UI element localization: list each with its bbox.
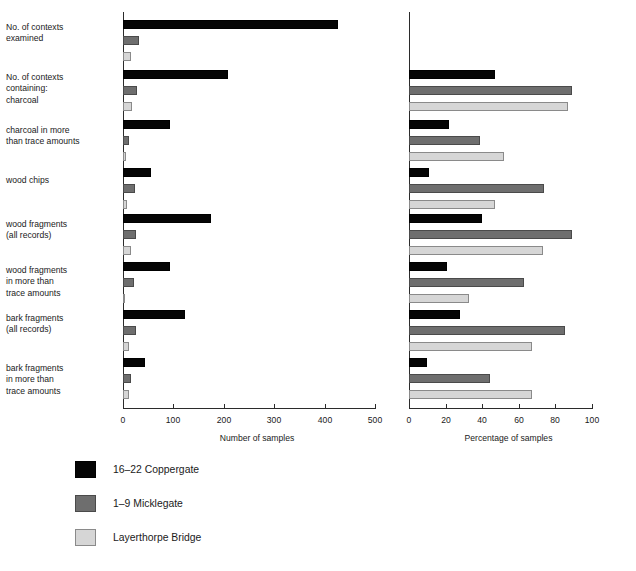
x-axis-tick-label: 80	[550, 415, 560, 425]
x-axis-tick	[519, 404, 520, 408]
bar	[409, 136, 480, 145]
x-axis-tick-label: 60	[514, 415, 524, 425]
bar	[409, 102, 568, 111]
x-axis-tick-label: 40	[477, 415, 487, 425]
bar	[409, 86, 572, 95]
legend-label-layerthorpe: Layerthorpe Bridge	[113, 529, 201, 546]
bar	[409, 294, 469, 303]
legend-swatch-layerthorpe	[75, 529, 96, 546]
x-axis-tick	[592, 404, 593, 408]
legend-label-micklegate: 1–9 Micklegate	[113, 495, 183, 512]
bar	[409, 246, 543, 255]
x-axis-tick	[409, 404, 410, 408]
bar	[409, 168, 429, 177]
bar	[409, 278, 524, 287]
figure-bar-chart-pair: No. of contexts examinedNo. of contexts …	[0, 0, 636, 571]
x-axis-tick-label: 0	[407, 415, 412, 425]
legend-label-coppergate: 16–22 Coppergate	[113, 461, 199, 478]
x-axis-title: Percentage of samples	[465, 433, 553, 443]
bar	[409, 70, 495, 79]
bar	[409, 200, 495, 209]
bar	[409, 120, 449, 129]
bar	[409, 374, 490, 383]
bar	[409, 152, 504, 161]
x-axis-tick	[555, 404, 556, 408]
bar	[409, 326, 565, 335]
x-axis-tick-label: 20	[441, 415, 451, 425]
x-axis-line	[409, 408, 593, 409]
bar	[409, 390, 532, 399]
legend-swatch-micklegate	[75, 495, 96, 512]
x-axis-tick-label: 100	[585, 415, 599, 425]
bar	[409, 310, 460, 319]
x-axis-tick	[482, 404, 483, 408]
bar	[409, 358, 427, 367]
bar	[409, 262, 447, 271]
bar	[409, 184, 544, 193]
bar	[409, 214, 482, 223]
bar	[409, 342, 532, 351]
panel-percentage-of-samples: 020406080100Percentage of samples	[0, 0, 636, 460]
bar	[409, 230, 572, 239]
x-axis-tick	[446, 404, 447, 408]
legend-swatch-coppergate	[75, 461, 96, 478]
